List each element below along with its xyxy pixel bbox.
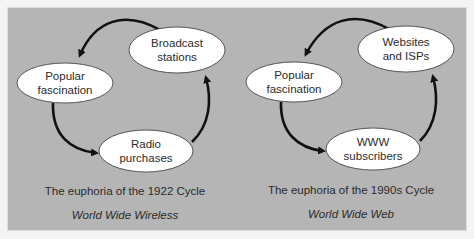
node-label-popular-fascination: Popular fascination [38, 69, 93, 97]
arrow-popular-to-www [281, 102, 323, 151]
node-label-radio-purchases: Radio purchases [119, 137, 172, 165]
arrow-radio-to-broadcast [192, 78, 209, 142]
arrow-popular-to-radio [53, 103, 96, 153]
node-label-www-subscribers: WWW subscribers [344, 135, 403, 163]
arrow-www-to-websites [420, 77, 436, 141]
caption-1990s-cycle: The euphoria of the 1990s Cycle [268, 184, 434, 196]
subtitle-world-wide-wireless: World Wide Wireless [72, 209, 179, 221]
node-label-websites-isps: Websites and ISPs [382, 35, 429, 63]
node-label-broadcast-stations: Broadcast stations [151, 36, 203, 64]
node-label-popular-fascination-2: Popular fascination [267, 68, 322, 96]
caption-1922-cycle: The euphoria of the 1922 Cycle [45, 185, 205, 197]
subtitle-world-wide-web: World Wide Web [308, 208, 394, 220]
